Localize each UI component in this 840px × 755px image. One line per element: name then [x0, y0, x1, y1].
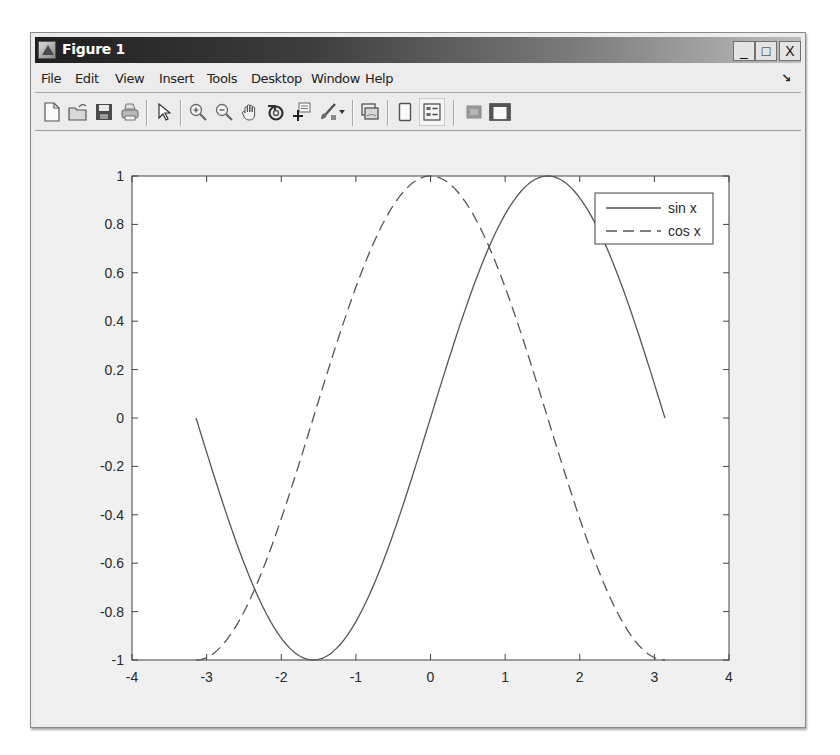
legend-label: cos x: [668, 223, 701, 239]
menu-bar: File Edit View Insert Tools Desktop Wind…: [35, 65, 801, 93]
hide-plot-tools-button[interactable]: [463, 100, 485, 124]
rotate-3d-icon: [266, 102, 286, 122]
rotate-3d-button[interactable]: [265, 100, 287, 124]
x-tick-label: 3: [650, 669, 658, 685]
axes[interactable]: -4-3-2-10123410.80.60.40.20-0.2-0.4-0.6-…: [100, 168, 733, 685]
show-plot-tools-button[interactable]: [487, 100, 513, 124]
show-plot-tools-icon: [489, 103, 511, 121]
brush-dropdown-button[interactable]: [337, 100, 347, 124]
link-plot-icon: [360, 102, 380, 122]
y-tick-label: -0.4: [100, 507, 124, 523]
y-tick-label: 1: [116, 168, 124, 184]
print-icon: [120, 103, 140, 121]
zoom-in-button[interactable]: [187, 100, 209, 124]
toolbar-separator: [352, 100, 354, 126]
print-figure-button[interactable]: [119, 100, 141, 124]
x-tick-label: -3: [200, 669, 213, 685]
brush-button[interactable]: [317, 100, 339, 124]
data-cursor-icon: [292, 102, 312, 122]
legend[interactable]: sin xcos x: [595, 193, 713, 244]
figure-window: Figure 1 _ □ X File Edit View Insert Too…: [30, 32, 806, 728]
toolbar-separator: [180, 100, 182, 126]
pan-hand-icon: [240, 102, 260, 122]
x-tick-label: 0: [427, 669, 435, 685]
open-file-button[interactable]: [67, 100, 89, 124]
y-tick-label: 0: [116, 410, 124, 426]
legend-label: sin x: [668, 200, 697, 216]
edit-plot-button[interactable]: [153, 100, 175, 124]
menu-edit[interactable]: Edit: [75, 71, 99, 86]
zoom-in-icon: [188, 102, 208, 122]
brush-icon: [318, 102, 338, 122]
window-title: Figure 1: [62, 41, 125, 57]
maximize-button[interactable]: □: [755, 41, 777, 61]
insert-colorbar-button[interactable]: [394, 100, 416, 124]
close-button[interactable]: X: [779, 41, 801, 61]
toolbar-separator: [453, 100, 455, 126]
data-cursor-button[interactable]: [291, 100, 313, 124]
zoom-out-button[interactable]: [213, 100, 235, 124]
menu-insert[interactable]: Insert: [159, 71, 194, 86]
save-figure-button[interactable]: [93, 100, 115, 124]
y-tick-label: -0.6: [100, 555, 124, 571]
y-tick-label: 0.6: [105, 265, 125, 281]
menu-help[interactable]: Help: [365, 71, 393, 86]
link-plot-button[interactable]: [359, 100, 381, 124]
menu-window[interactable]: Window: [311, 71, 360, 86]
matlab-app-icon: [38, 41, 56, 59]
new-file-icon: [44, 102, 60, 122]
pointer-arrow-icon: [157, 103, 171, 121]
menu-file[interactable]: File: [41, 71, 61, 86]
y-tick-label: -1: [112, 652, 125, 668]
plot-canvas[interactable]: -4-3-2-10123410.80.60.40.20-0.2-0.4-0.6-…: [35, 132, 803, 726]
pan-button[interactable]: [239, 100, 261, 124]
menu-view[interactable]: View: [115, 71, 144, 86]
x-tick-label: -2: [275, 669, 288, 685]
y-tick-label: 0.4: [105, 313, 125, 329]
zoom-out-icon: [214, 102, 234, 122]
open-folder-icon: [68, 103, 88, 121]
y-tick-label: 0.8: [105, 216, 125, 232]
figure-toolbar: [35, 94, 801, 131]
colorbar-icon: [398, 102, 412, 122]
hide-plot-tools-icon: [466, 104, 482, 120]
x-tick-label: 4: [725, 669, 733, 685]
dock-figure-icon[interactable]: ↘: [781, 71, 791, 85]
x-tick-label: 2: [576, 669, 584, 685]
x-tick-label: 1: [501, 669, 509, 685]
figure-canvas-area: -4-3-2-10123410.80.60.40.20-0.2-0.4-0.6-…: [35, 132, 801, 724]
y-tick-label: 0.2: [105, 362, 125, 378]
y-tick-label: -0.8: [100, 604, 124, 620]
title-bar[interactable]: Figure 1 _ □ X: [35, 37, 801, 63]
x-tick-label: -4: [126, 669, 139, 685]
y-tick-label: -0.2: [100, 458, 124, 474]
toolbar-separator: [387, 100, 389, 126]
dropdown-arrow-icon: [338, 109, 346, 115]
new-figure-button[interactable]: [41, 100, 63, 124]
save-icon: [95, 103, 113, 121]
minimize-button[interactable]: _: [733, 41, 755, 61]
menu-tools[interactable]: Tools: [207, 71, 237, 86]
insert-legend-button[interactable]: [419, 98, 445, 126]
x-tick-label: -1: [350, 669, 363, 685]
menu-desktop[interactable]: Desktop: [251, 71, 302, 86]
legend-icon: [423, 103, 441, 121]
toolbar-separator: [146, 100, 148, 126]
